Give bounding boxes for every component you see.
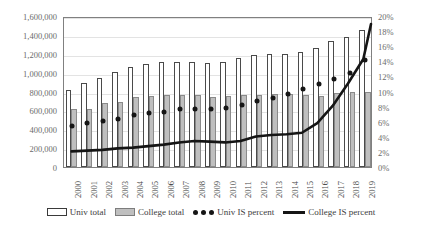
gray-bar-swatch-icon [115,208,135,216]
x-axis-tick-label: 2011 [244,181,253,198]
y2-axis-tick-label: 10% [378,89,394,98]
y-axis-tick-label: 400,000 [29,126,57,135]
y2-axis-tick-label: 2% [378,149,389,158]
x-axis-tick-label: 2018 [352,181,361,198]
y-axis-tick-label: 1,000,000 [23,70,57,79]
chart-legend: Univ total College total Univ IS percent… [0,203,422,221]
y-axis-tick-label: 1,200,000 [23,51,57,60]
legend-label: Univ IS percent [217,208,274,217]
x-axis-tick-label: 2001 [90,181,99,198]
x-axis-tick-label: 2014 [291,181,300,198]
legend-item-univ-is-percent: Univ IS percent [193,208,274,217]
y2-axis-tick-label: 12% [378,73,394,82]
y2-axis-tick-label: 18% [378,28,394,37]
x-axis-tick-label: 2004 [136,181,145,198]
y-axis-tick-label: 1,400,000 [23,32,57,41]
legend-item-college-is-percent: College IS percent [283,208,375,217]
x-axis-tick-label: 2006 [167,181,176,198]
x-axis-tick-label: 2008 [198,181,207,198]
x-axis-tick-label: 2007 [182,181,191,198]
x-axis-tick-label: 2017 [337,181,346,198]
x-axis-tick-label: 2012 [260,181,269,198]
y2-axis-tick-label: 8% [378,104,389,113]
x-axis-year-labels: 2000200120022003200420052006200720082009… [63,169,372,201]
legend-label: College total [138,208,184,217]
x-axis-tick-label: 2015 [306,181,315,198]
y-axis-tick-label: 600,000 [29,107,57,116]
x-axis-tick-label: 2005 [151,181,160,198]
chart-container: 0200,000400,000600,000800,0001,000,0001,… [0,0,422,226]
x-axis-tick-label: 2009 [213,181,222,198]
y-axis-left: 0200,000400,000600,000800,0001,000,0001,… [0,0,61,185]
legend-item-college-total: College total [115,208,184,217]
solid-line-swatch-icon [283,211,305,214]
x-axis-tick-label: 2013 [275,181,284,198]
y-axis-tick-label: 1,600,000 [23,13,57,22]
y2-axis-tick-label: 16% [378,43,394,52]
x-axis-tick-label: 2010 [229,181,238,198]
y2-axis-tick-label: 4% [378,134,389,143]
y2-axis-tick-label: 20% [378,13,394,22]
y-axis-tick-label: 0 [53,164,57,173]
y-axis-tick-label: 800,000 [29,89,57,98]
dotted-marker-swatch-icon [193,210,214,215]
y2-axis-tick-label: 14% [378,58,394,67]
x-axis-tick-label: 2019 [368,181,377,198]
y-axis-tick-label: 200,000 [29,145,57,154]
x-axis-tick-label: 2002 [105,181,114,198]
legend-label: Univ total [70,208,106,217]
college-is-percent-series [64,18,371,167]
x-axis-tick-label: 2016 [321,181,330,198]
legend-label: College IS percent [308,208,375,217]
legend-item-univ-total: Univ total [47,208,106,217]
y-axis-right-percent: 0%2%4%6%8%10%12%14%16%18%20% [375,0,421,185]
y2-axis-tick-label: 6% [378,119,389,128]
x-axis-tick-label: 2003 [121,181,130,198]
y2-axis-tick-label: 0% [378,164,389,173]
plot-area [63,17,372,168]
x-axis-tick-label: 2000 [74,181,83,198]
white-bar-swatch-icon [47,208,67,216]
